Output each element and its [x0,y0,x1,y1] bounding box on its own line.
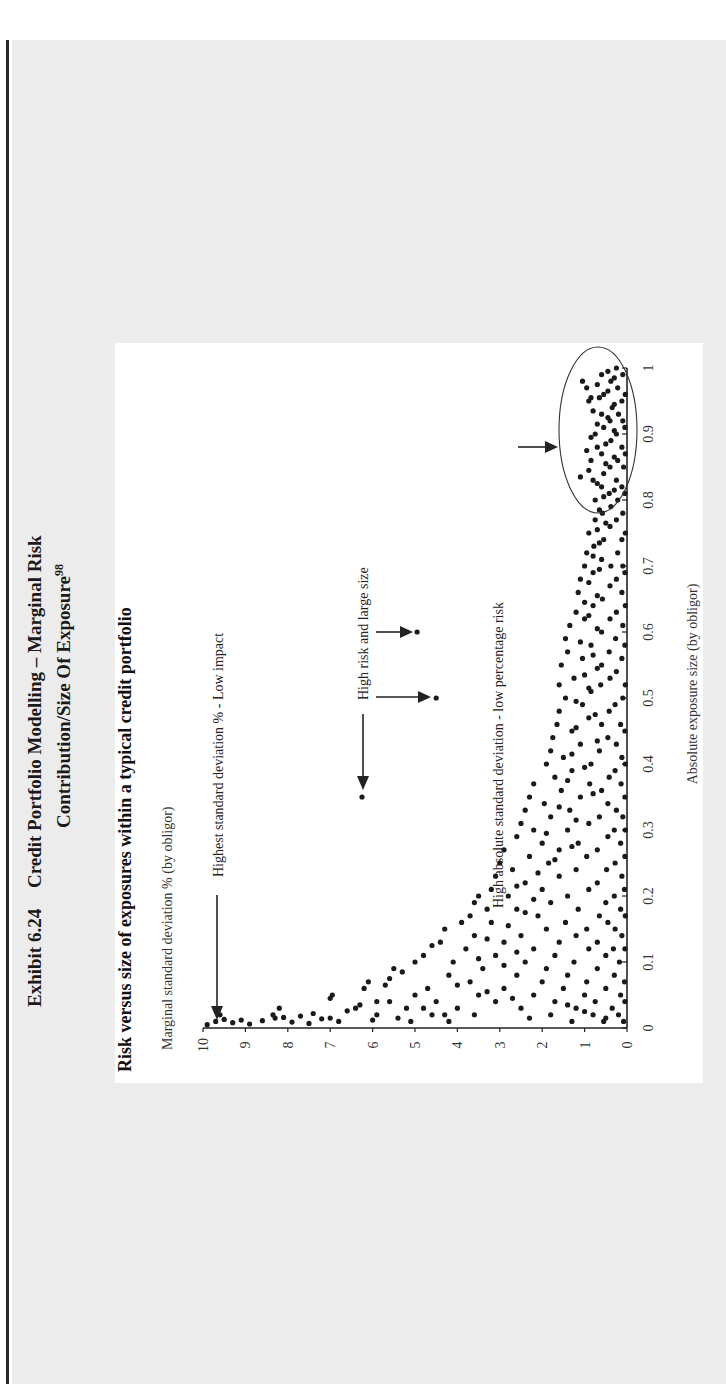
data-point [591,791,596,796]
data-point [506,893,511,898]
data-point [591,478,596,483]
data-point [619,656,624,661]
data-point [395,1016,400,1021]
data-point [601,537,606,542]
data-point [607,709,612,714]
data-point [597,395,602,400]
y-tick-label: 7 [323,1042,338,1049]
data-point [593,517,598,522]
data-point [518,821,523,826]
data-point [607,616,612,621]
data-point [614,742,619,747]
data-point [523,910,528,915]
data-point [613,636,618,641]
data-point [421,953,426,958]
data-point [557,847,562,852]
data-point [614,610,619,615]
data-point [591,408,596,413]
data-point [281,1015,286,1020]
data-point [597,814,602,819]
data-point [603,1016,608,1021]
data-point [621,1019,626,1024]
data-point [597,913,602,918]
data-point [493,953,498,958]
data-point [514,884,519,889]
data-point [601,494,606,499]
data-point [480,966,485,971]
data-point [548,814,553,819]
data-point [574,699,579,704]
data-point [567,808,572,813]
data-point [615,550,620,555]
data-point [601,471,606,476]
data-point [552,775,557,780]
data-point [319,1016,324,1021]
data-point [569,1019,574,1024]
data-point [603,986,608,991]
data-point [429,1012,434,1017]
data-point [565,649,570,654]
data-point [548,1012,553,1017]
data-point [619,484,624,489]
data-point [587,781,592,786]
data-point [523,880,528,885]
data-point [582,765,587,770]
data-point [548,748,553,753]
data-point [599,629,604,634]
data-point [370,1018,375,1023]
data-point [623,827,628,832]
x-tick-label: 0.3 [641,821,656,839]
data-point [247,1021,252,1026]
x-tick-label: 1 [641,365,656,372]
data-point [563,636,568,641]
data-point [582,672,587,677]
highlighted-data-point [434,695,439,700]
data-point [574,867,579,872]
data-point [565,893,570,898]
data-point [514,950,519,955]
data-point [514,973,519,978]
data-point [595,966,600,971]
data-point [569,751,574,756]
data-point [612,973,617,978]
data-point [597,748,602,753]
data-point [571,959,576,964]
data-point [586,530,591,535]
data-point [623,603,628,608]
data-point [580,702,585,707]
data-point [582,1009,587,1014]
data-point [205,1022,210,1027]
data-point [623,682,628,687]
data-point [576,841,581,846]
data-point [595,382,600,387]
data-point [438,940,443,945]
data-point [584,926,589,931]
data-point [455,1006,460,1011]
data-point [605,834,610,839]
data-point [563,920,568,925]
data-point [544,761,549,766]
data-point [622,946,627,951]
data-point [595,880,600,885]
data-point [400,969,405,974]
data-point [622,643,627,648]
data-point [501,963,506,968]
data-point [311,1011,316,1016]
y-tick-label: 8 [281,1042,296,1049]
data-point [535,913,540,918]
data-point [506,923,511,928]
data-point [612,402,617,407]
data-point [620,511,625,516]
data-point [599,412,604,417]
data-point [489,920,494,925]
data-point [593,431,598,436]
data-point [607,464,612,469]
data-point [404,1006,409,1011]
data-point [442,1012,447,1017]
data-point [408,1019,413,1024]
data-point [597,540,602,545]
data-point [593,497,598,502]
data-point [561,986,566,991]
data-point [463,946,468,951]
data-point [434,999,439,1004]
